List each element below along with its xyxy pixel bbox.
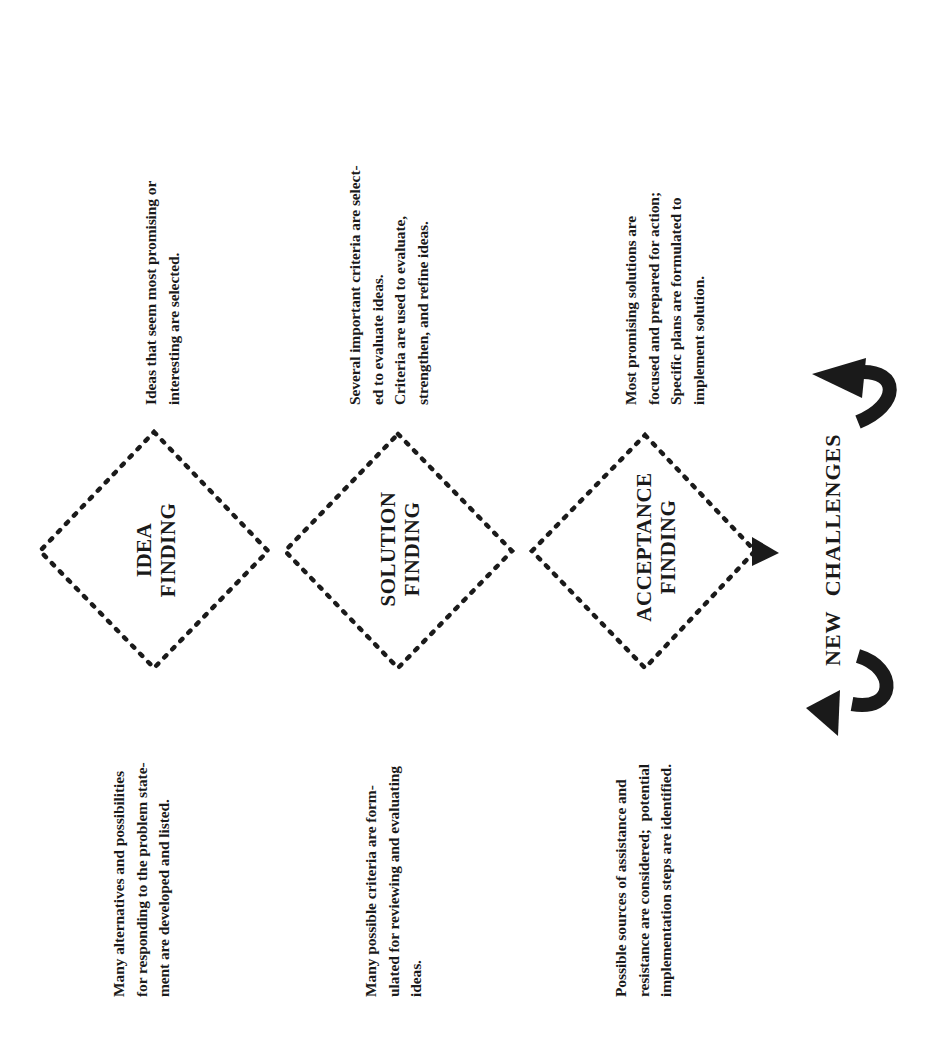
acceptance-finding-title: ACCEPTANCE FINDING xyxy=(632,450,680,644)
idea-finding-convergent-text: Ideas that seem most promising or intere… xyxy=(140,181,185,405)
solution-finding-title: SOLUTION FINDING xyxy=(376,484,424,614)
idea-finding-title: IDEA FINDING xyxy=(132,488,180,612)
solution-finding-divergent-text: Many possible criteria are form- ulated … xyxy=(360,766,428,997)
new-challenges-label: NEW CHALLENGES xyxy=(820,434,846,666)
curved-arrow-left-icon xyxy=(806,656,887,736)
arrowhead-icon xyxy=(752,537,779,566)
acceptance-finding-convergent-text: Most promising solutions are focused and… xyxy=(620,192,710,405)
solution-finding-convergent-text: Several important criteria are select- e… xyxy=(344,165,434,405)
acceptance-finding-divergent-text: Possible sources of assistance and resis… xyxy=(610,764,678,997)
curved-arrow-right-icon xyxy=(812,358,890,422)
idea-finding-divergent-text: Many alternatives and possibilities for … xyxy=(108,763,176,998)
